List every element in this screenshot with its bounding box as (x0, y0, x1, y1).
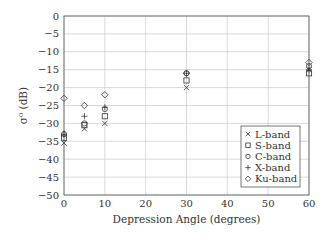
legend-label: L-band (255, 129, 291, 140)
x-tick-label: 60 (303, 198, 316, 209)
x-tick-label: 10 (98, 198, 111, 209)
y-tick-label: −30 (38, 118, 59, 129)
x-tick-label: 20 (139, 198, 152, 209)
y-tick-label: −10 (38, 46, 59, 57)
x-tick-label: 0 (61, 198, 67, 209)
x-axis-label: Depression Angle (degrees) (113, 213, 261, 225)
y-tick-label: 0 (53, 11, 59, 22)
y-axis-ticks: 0−5−10−15−20−25−30−35−40−45−50 (38, 11, 59, 201)
y-tick-label: −35 (38, 136, 59, 147)
y-tick-label: −15 (38, 64, 59, 75)
legend-label: C-band (255, 151, 292, 162)
y-axis-label: σ⁰ (dB) (17, 87, 29, 124)
y-tick-label: −5 (44, 28, 59, 39)
scatter-chart: 0−5−10−15−20−25−30−35−40−45−50 010203040… (0, 0, 333, 234)
x-axis-ticks: 0102030405060 (61, 198, 316, 209)
x-tick-label: 50 (262, 198, 275, 209)
y-tick-label: −20 (38, 82, 59, 93)
legend: L-bandS-bandC-bandX-bandKu-band (241, 126, 300, 187)
legend-label: Ku-band (255, 173, 298, 184)
y-tick-label: −25 (38, 100, 59, 111)
y-tick-label: −40 (38, 154, 59, 165)
x-tick-label: 30 (180, 198, 193, 209)
legend-label: S-band (255, 140, 291, 151)
legend-label: X-band (255, 162, 291, 173)
y-tick-label: −45 (38, 172, 59, 183)
y-tick-label: −50 (38, 190, 59, 201)
x-tick-label: 40 (221, 198, 234, 209)
